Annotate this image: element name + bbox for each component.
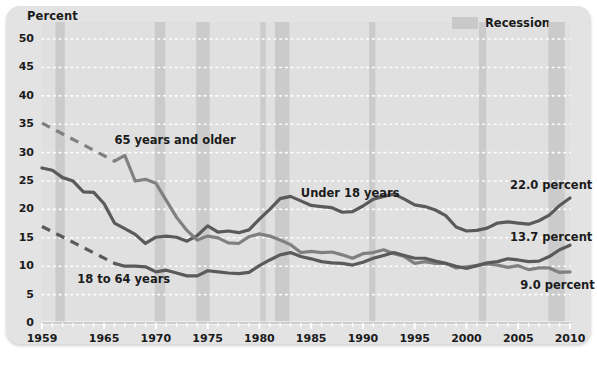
y-tick-label: 50 [8, 32, 34, 45]
endlabel-18-to-64: 9.0 percent [520, 278, 594, 292]
x-tick-label: 2010 [550, 332, 590, 345]
label-under-18: Under 18 years [301, 186, 400, 200]
y-tick-label: 30 [8, 146, 34, 159]
series-line-65-years-and-older [114, 155, 570, 272]
series-dashed-65-years-and-older [42, 123, 114, 161]
endlabel-under-18: 22.0 percent [510, 178, 592, 192]
x-tick-label: 1980 [239, 332, 279, 345]
y-tick-label: 35 [8, 117, 34, 130]
x-tick-label: 2000 [446, 332, 486, 345]
series-line-under-18-years [42, 168, 570, 244]
y-tick-label: 5 [8, 288, 34, 301]
endlabel-65-and-older: 13.7 percent [510, 230, 592, 244]
y-tick-label: 25 [8, 174, 34, 187]
x-tick-label: 1995 [395, 332, 435, 345]
label-18-to-64: 18 to 64 years [77, 272, 170, 286]
x-tick-label: 1985 [291, 332, 331, 345]
x-tick-label: 1970 [136, 332, 176, 345]
x-tick-label: 1990 [343, 332, 383, 345]
y-tick-label: 0 [8, 316, 34, 329]
x-tick-label: 1975 [188, 332, 228, 345]
poverty-rate-chart-figure: Percent Recession 05101520253035404550 1… [0, 0, 597, 367]
y-tick-label: 15 [8, 231, 34, 244]
label-65-and-older: 65 years and older [114, 133, 235, 147]
y-tick-label: 45 [8, 60, 34, 73]
x-tick-label: 1959 [22, 332, 62, 345]
y-tick-label: 20 [8, 202, 34, 215]
x-tick-label: 2005 [498, 332, 538, 345]
chart-plot-svg [0, 0, 597, 367]
series-line-18-to-64-years [114, 245, 570, 276]
series-dashed-18-to-64-years [42, 226, 114, 263]
y-tick-label: 40 [8, 89, 34, 102]
y-tick-label: 10 [8, 259, 34, 272]
x-tick-label: 1965 [84, 332, 124, 345]
